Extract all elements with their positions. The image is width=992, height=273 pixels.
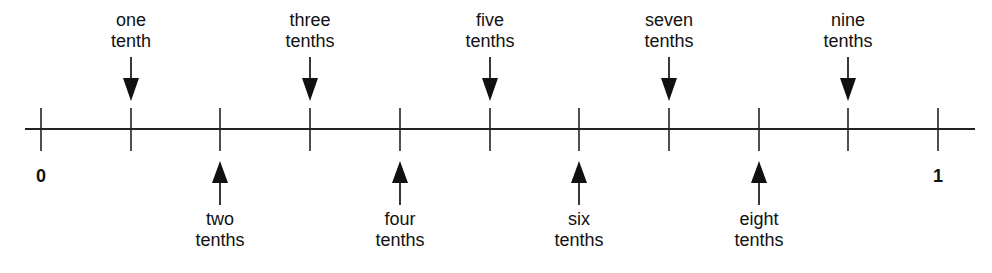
- fraction-label: twotenths: [160, 209, 280, 251]
- label-line2: tenths: [609, 31, 729, 52]
- arrow-up-icon: [571, 161, 587, 205]
- fraction-label: sixtenths: [519, 209, 639, 251]
- label-line1: nine: [788, 10, 908, 31]
- arrow-down-icon: [661, 57, 677, 101]
- arrow-down-icon: [123, 57, 139, 101]
- label-line1: five: [430, 10, 550, 31]
- end-label: 1: [923, 166, 953, 187]
- fraction-label: fourtenths: [340, 209, 460, 251]
- label-line2: tenths: [430, 31, 550, 52]
- label-line1: four: [340, 209, 460, 230]
- arrow-up-icon: [212, 161, 228, 205]
- arrow-down-icon: [840, 57, 856, 101]
- fraction-label: ninetenths: [788, 10, 908, 52]
- label-line1: three: [250, 10, 370, 31]
- number-line-diagram: 0 1 onetenthtwotenthsthreetenthsfourtent…: [0, 0, 992, 273]
- arrow-up-icon: [751, 161, 767, 205]
- start-label: 0: [26, 166, 56, 187]
- label-line2: tenths: [250, 31, 370, 52]
- fraction-label: threetenths: [250, 10, 370, 52]
- fraction-label: eighttenths: [699, 209, 819, 251]
- label-line2: tenth: [71, 31, 191, 52]
- fraction-label: seventenths: [609, 10, 729, 52]
- label-line2: tenths: [788, 31, 908, 52]
- arrow-up-icon: [392, 161, 408, 205]
- label-line1: one: [71, 10, 191, 31]
- label-line2: tenths: [160, 230, 280, 251]
- label-line1: two: [160, 209, 280, 230]
- label-line1: six: [519, 209, 639, 230]
- fraction-label: fivetenths: [430, 10, 550, 52]
- fraction-label: onetenth: [71, 10, 191, 52]
- arrow-down-icon: [302, 57, 318, 101]
- arrow-down-icon: [482, 57, 498, 101]
- label-line1: eight: [699, 209, 819, 230]
- label-line2: tenths: [519, 230, 639, 251]
- label-line2: tenths: [340, 230, 460, 251]
- label-line2: tenths: [699, 230, 819, 251]
- label-line1: seven: [609, 10, 729, 31]
